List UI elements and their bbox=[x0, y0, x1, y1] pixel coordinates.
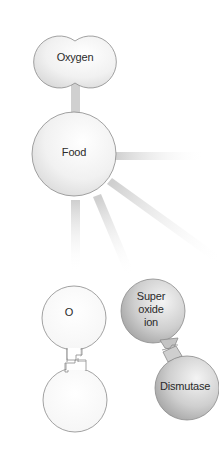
oxygen-label: Oxygen bbox=[48, 51, 102, 63]
food-label: Food bbox=[54, 146, 94, 158]
superoxide-label-line3: ion bbox=[131, 316, 171, 328]
ray-diag-steep bbox=[93, 194, 135, 278]
ray-down bbox=[71, 200, 80, 272]
ray-right bbox=[115, 152, 205, 160]
superoxide-label-line1: Super bbox=[131, 290, 171, 302]
o-atom-label: O bbox=[59, 306, 79, 318]
diagram-canvas: Oxygen Food O Super oxide ion Dismutase bbox=[0, 0, 219, 459]
dismutase-label: Dismutase bbox=[160, 380, 219, 392]
superoxide-label-line2: oxide bbox=[131, 303, 171, 315]
